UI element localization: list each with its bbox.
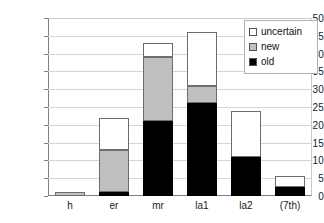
bar-segment-uncertain <box>231 111 261 157</box>
legend-swatch-old <box>249 58 257 66</box>
bar-(7th) <box>275 176 305 196</box>
bar-segment-old <box>187 103 217 196</box>
legend-label: new <box>261 42 279 52</box>
bar-segment-uncertain <box>275 176 305 187</box>
bar-segment-uncertain <box>187 32 217 85</box>
bar-la2 <box>231 111 261 196</box>
bar-er <box>99 118 129 196</box>
legend-item: new <box>249 39 313 54</box>
legend-swatch-new <box>249 43 257 51</box>
bar-segment-old <box>143 121 173 196</box>
legend-item: uncertain <box>249 24 313 39</box>
bar-la1 <box>187 32 217 196</box>
legend-item: old <box>249 54 313 69</box>
bar-segment-new <box>143 57 173 121</box>
x-tick-label: (7th) <box>260 200 320 211</box>
bar-h <box>55 192 85 196</box>
stacked-bar-chart: 05101520253035404550 hermrla1la2(7th) un… <box>0 0 324 223</box>
bar-segment-new <box>55 192 85 196</box>
bar-mr <box>143 43 173 196</box>
bar-segment-old <box>275 187 305 196</box>
legend-label: old <box>261 57 274 67</box>
legend: uncertain new old <box>244 20 318 74</box>
legend-label: uncertain <box>261 27 302 37</box>
bar-segment-new <box>187 86 217 104</box>
bar-segment-uncertain <box>99 118 129 150</box>
y-tick-mark <box>44 196 48 197</box>
bar-segment-new <box>99 150 129 193</box>
legend-swatch-uncertain <box>249 28 257 36</box>
bar-segment-uncertain <box>143 43 173 57</box>
bar-segment-old <box>99 192 129 196</box>
bar-segment-old <box>231 157 261 196</box>
